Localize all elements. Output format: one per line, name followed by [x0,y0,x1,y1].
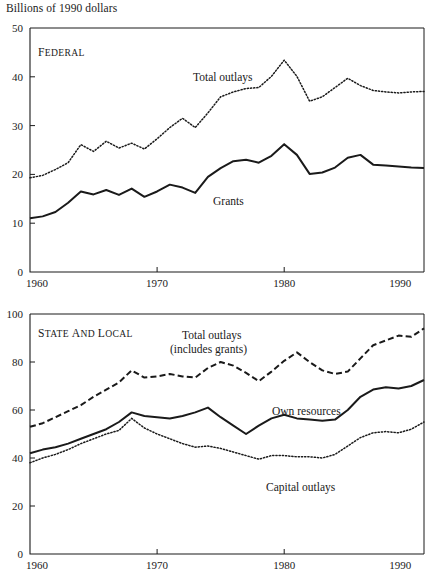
federal-ticks [30,77,284,272]
federal-chart-svg: 010203040501960197019801990 FEDERAL Tota… [0,18,436,293]
y-tick-label: 40 [12,71,24,83]
series-label-own-resources: Own resources [272,405,341,417]
federal-tick-labels: 010203040501960197019801990 [12,22,412,289]
y-tick-label: 20 [12,500,24,512]
y-tick-label: 0 [18,266,24,278]
panel-label-state-and-local: STATE AND LOCAL [38,327,133,340]
series-line-capital-outlays [30,418,424,462]
series-label-total-outlays-line1: Total outlays [182,329,242,342]
series-label-total-outlays-line2: (includes grants) [170,343,247,356]
chart-panel-state-and-local: 0204060801001960197019801990 STATE AND L… [0,305,436,582]
y-tick-label: 80 [12,356,24,368]
x-tick-label: 1990 [389,559,412,571]
x-tick-label: 1980 [273,277,296,289]
panel-label-federal: FEDERAL [38,46,85,59]
y-tick-label: 30 [12,120,24,132]
x-tick-label: 1990 [389,277,412,289]
x-tick-label: 1960 [26,559,49,571]
y-tick-label: 100 [7,308,24,320]
y-tick-label: 20 [12,168,24,180]
y-tick-label: 40 [12,452,24,464]
state-local-chart-svg: 0204060801001960197019801990 STATE AND L… [0,305,436,582]
x-tick-label: 1970 [146,559,169,571]
x-tick-label: 1960 [26,277,49,289]
chart-panel-federal: 010203040501960197019801990 FEDERAL Tota… [0,18,436,293]
x-tick-label: 1970 [146,277,169,289]
federal-axes [30,28,424,272]
series-label-capital-outlays: Capital outlays [266,481,336,494]
x-tick-label: 1980 [273,559,296,571]
y-tick-label: 10 [12,217,24,229]
y-tick-label: 0 [18,548,24,560]
series-label-grants: Grants [213,195,244,207]
figure-root: Billions of 1990 dollars 010203040501960… [0,0,436,582]
y-tick-label: 50 [12,22,24,34]
series-line-grants [30,144,424,218]
series-line-own-resources [30,380,424,453]
figure-title: Billions of 1990 dollars [6,2,117,14]
state-ticks [30,362,284,554]
y-tick-label: 60 [12,404,24,416]
series-label-total-outlays: Total outlays [193,71,253,84]
